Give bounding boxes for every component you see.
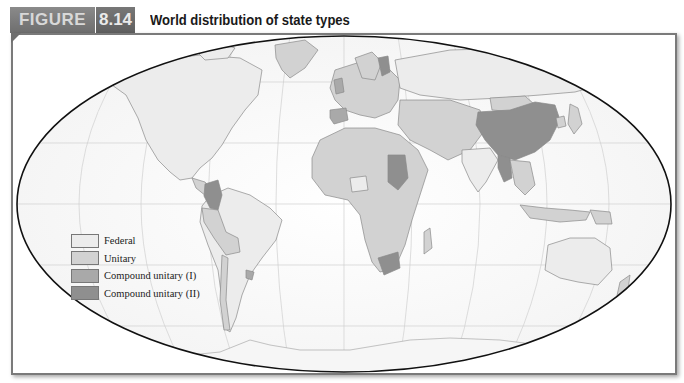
united-kingdom bbox=[334, 78, 344, 94]
legend-item-compound-unitary-1: Compound unitary (I) bbox=[71, 267, 200, 285]
swatch-unitary bbox=[71, 251, 99, 265]
map-legend: Federal Unitary Compound unitary (I) Com… bbox=[71, 232, 200, 302]
legend-item-federal: Federal bbox=[71, 232, 200, 250]
swatch-federal bbox=[71, 234, 99, 248]
legend-item-unitary: Unitary bbox=[71, 250, 200, 268]
legend-label: Federal bbox=[104, 235, 136, 246]
world-map bbox=[0, 0, 684, 383]
swatch-compound-unitary-1 bbox=[71, 269, 99, 283]
nigeria bbox=[350, 176, 368, 192]
legend-item-compound-unitary-2: Compound unitary (II) bbox=[71, 285, 200, 303]
legend-label: Compound unitary (II) bbox=[104, 288, 200, 299]
swatch-compound-unitary-2 bbox=[71, 286, 99, 300]
legend-label: Unitary bbox=[104, 253, 136, 264]
legend-label: Compound unitary (I) bbox=[104, 270, 196, 281]
